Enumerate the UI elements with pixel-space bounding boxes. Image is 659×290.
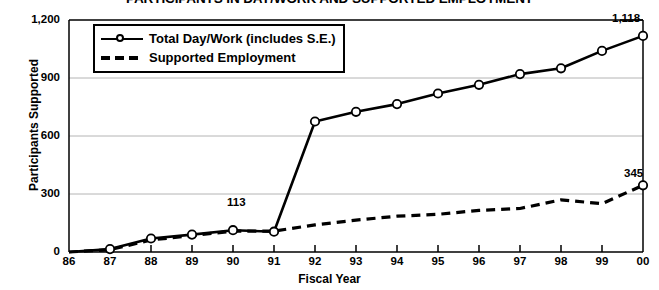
legend-key-dashed-line-icon xyxy=(101,51,143,65)
data-point-marker xyxy=(106,245,114,253)
x-tick-89: 89 xyxy=(177,256,207,268)
data-point-marker xyxy=(516,70,524,78)
data-point-marker xyxy=(639,32,647,40)
y-axis-tick-labels: 1,200 900 600 300 0 xyxy=(14,0,60,290)
legend-item-total-day-work: Total Day/Work (includes S.E.) xyxy=(101,29,336,48)
x-tick-99: 99 xyxy=(587,256,617,268)
x-axis-title: Fiscal Year xyxy=(0,272,659,286)
chart-title: PARTICIPANTS IN DAY/WORK AND SUPPORTED E… xyxy=(0,0,659,6)
x-tick-marks xyxy=(110,245,602,252)
data-point-marker xyxy=(147,234,155,242)
data-point-marker xyxy=(352,108,360,116)
data-point-marker xyxy=(393,100,401,108)
y-tick-300: 300 xyxy=(14,188,60,200)
x-tick-88: 88 xyxy=(136,256,166,268)
data-point-marker xyxy=(475,81,483,89)
legend-key-solid-line-icon xyxy=(101,32,143,46)
data-point-marker xyxy=(598,47,606,55)
y-tick-900: 900 xyxy=(14,72,60,84)
chart-figure: PARTICIPANTS IN DAY/WORK AND SUPPORTED E… xyxy=(0,0,659,290)
x-tick-97: 97 xyxy=(505,256,535,268)
y-tick-600: 600 xyxy=(14,130,60,142)
series-supported-employment xyxy=(69,185,643,252)
data-point-marker xyxy=(270,228,278,236)
data-point-marker xyxy=(188,230,196,238)
x-tick-86: 86 xyxy=(54,256,84,268)
x-tick-95: 95 xyxy=(423,256,453,268)
data-point-marker xyxy=(229,226,237,234)
y-tick-1200: 1,200 xyxy=(14,14,60,26)
x-tick-90: 90 xyxy=(218,256,248,268)
legend-label-supported-employment: Supported Employment xyxy=(149,50,296,65)
gridlines xyxy=(69,78,643,194)
legend-item-supported-employment: Supported Employment xyxy=(101,48,336,67)
x-tick-91: 91 xyxy=(259,256,289,268)
x-tick-92: 92 xyxy=(300,256,330,268)
x-tick-96: 96 xyxy=(464,256,494,268)
series-supported-employment-markers xyxy=(639,181,647,189)
annotation-113: 113 xyxy=(227,197,246,209)
x-tick-00: 00 xyxy=(628,256,658,268)
data-point-marker xyxy=(557,64,565,72)
x-tick-87: 87 xyxy=(95,256,125,268)
x-tick-98: 98 xyxy=(546,256,576,268)
x-tick-93: 93 xyxy=(341,256,371,268)
data-point-marker xyxy=(434,89,442,97)
chart-legend: Total Day/Work (includes S.E.) Supported… xyxy=(93,24,345,73)
x-tick-94: 94 xyxy=(382,256,412,268)
data-point-marker xyxy=(639,181,647,189)
annotation-345: 345 xyxy=(624,168,643,180)
legend-label-total-day-work: Total Day/Work (includes S.E.) xyxy=(149,31,336,46)
data-point-marker xyxy=(311,117,319,125)
annotation-1118: 1,118 xyxy=(612,13,640,25)
